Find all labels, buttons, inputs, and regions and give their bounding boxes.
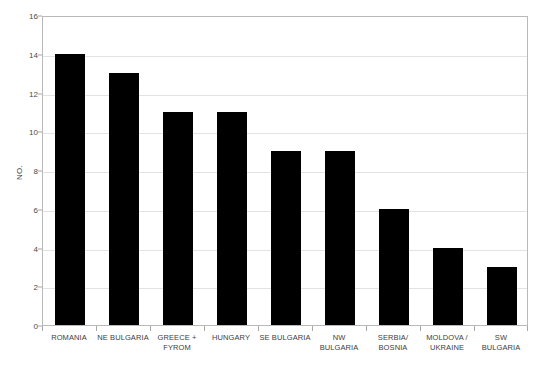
x-axis-tick-label-line: SE BULGARIA [258, 333, 312, 343]
x-axis-tick-label-line: FYROM [150, 343, 204, 353]
y-axis-tick-label: 10 [8, 128, 38, 137]
bar[interactable] [109, 73, 139, 325]
y-axis-tick-label: 16 [8, 12, 38, 21]
x-axis-tick-mark [366, 326, 367, 331]
y-axis-tick-label: 6 [8, 205, 38, 214]
x-axis-tick-mark [420, 326, 421, 331]
bar-slot [421, 17, 475, 325]
x-axis-tick-mark [527, 326, 528, 331]
x-axis-tick-label: GREECE +FYROM [150, 333, 204, 353]
y-axis-tick-label: 12 [8, 89, 38, 98]
bar-slot [43, 17, 97, 325]
bar[interactable] [163, 112, 193, 325]
bar-slot [475, 17, 529, 325]
x-axis-tick-marks [42, 326, 528, 331]
x-axis-tick-label: ROMANIA [42, 333, 96, 343]
x-axis-tick-mark [42, 326, 43, 331]
bar[interactable] [379, 209, 409, 325]
bar-chart-figure: NO. 0246810121416 ROMANIANE BULGARIAGREE… [0, 0, 542, 370]
bar[interactable] [433, 248, 463, 326]
x-axis-tick-mark [150, 326, 151, 331]
bar[interactable] [217, 112, 247, 325]
x-axis-tick-label-line: GREECE + [150, 333, 204, 343]
x-axis-tick-mark [204, 326, 205, 331]
x-axis-tick-label-line: SW [474, 333, 528, 343]
y-axis-tick-label: 2 [8, 283, 38, 292]
plot-area [42, 16, 528, 326]
x-axis-tick-label: SE BULGARIA [258, 333, 312, 343]
figure-caption-fragment [60, 361, 360, 370]
y-axis-tick-label: 14 [8, 50, 38, 59]
bar-slot [259, 17, 313, 325]
x-axis-tick-label-line: BOSNIA [366, 343, 420, 353]
x-axis-tick-label-line: MOLDOVA / [420, 333, 474, 343]
x-axis-tick-mark [96, 326, 97, 331]
x-axis-tick-label: SERBIA/BOSNIA [366, 333, 420, 353]
x-axis-tick-label-line: BULGARIA [312, 343, 366, 353]
y-axis-tick-label: 8 [8, 167, 38, 176]
y-axis-tick-labels: 0246810121416 [0, 16, 38, 326]
bar-slot [313, 17, 367, 325]
x-axis-tick-mark [258, 326, 259, 331]
x-axis-tick-label: HUNGARY [204, 333, 258, 343]
x-axis-tick-label: NWBULGARIA [312, 333, 366, 353]
x-axis-tick-label: MOLDOVA /UKRAINE [420, 333, 474, 353]
y-axis-tick-label: 0 [8, 322, 38, 331]
bar[interactable] [487, 267, 517, 325]
x-axis-tick-mark [474, 326, 475, 331]
x-axis-tick-label-line: SERBIA/ [366, 333, 420, 343]
y-axis-tick-label: 4 [8, 244, 38, 253]
x-axis-tick-label-line: HUNGARY [204, 333, 258, 343]
x-axis-tick-labels: ROMANIANE BULGARIAGREECE +FYROMHUNGARYSE… [42, 333, 528, 363]
x-axis-tick-label-line: NE BULGARIA [96, 333, 150, 343]
bar-slot [151, 17, 205, 325]
x-axis-tick-label-line: BULGARIA [474, 343, 528, 353]
x-axis-tick-mark [312, 326, 313, 331]
bar[interactable] [325, 151, 355, 325]
bar-slot [367, 17, 421, 325]
x-axis-tick-label-line: UKRAINE [420, 343, 474, 353]
x-axis-tick-label: SWBULGARIA [474, 333, 528, 353]
bar-slot [205, 17, 259, 325]
bar-slot [97, 17, 151, 325]
x-axis-tick-label-line: NW [312, 333, 366, 343]
x-axis-tick-label: NE BULGARIA [96, 333, 150, 343]
bar[interactable] [271, 151, 301, 325]
bar[interactable] [55, 54, 85, 325]
x-axis-tick-label-line: ROMANIA [42, 333, 96, 343]
